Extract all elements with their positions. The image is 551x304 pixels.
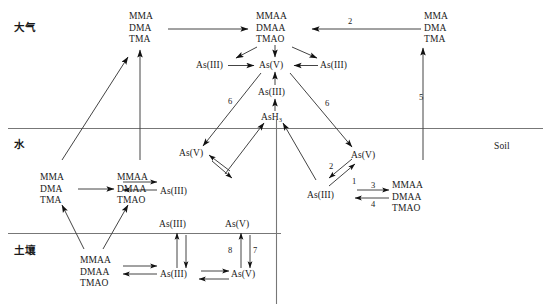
arrow-water-as3-to-as5-left <box>209 155 230 171</box>
node-line: DMA <box>129 23 153 35</box>
node-line: TMAO <box>80 278 111 290</box>
side-label-soil: Soil <box>494 141 510 153</box>
edge-label-4: 4 <box>371 199 375 211</box>
node-line: TMA <box>424 34 448 46</box>
node-soil-as5: As(V) <box>231 269 255 281</box>
node-arsine: AsH3 <box>261 112 282 124</box>
edge-label-7: 7 <box>253 245 257 257</box>
node-atm-as3-lower: As(III) <box>258 87 285 99</box>
arsine-subscript: 3 <box>279 116 282 123</box>
node-line: TMAO <box>117 195 148 207</box>
arrow-water-as3-to-ash3-left <box>225 123 264 174</box>
node-atm-as3-left: As(III) <box>196 60 223 72</box>
node-soil-interface-as5: As(V) <box>225 219 249 231</box>
edge-label-6-right: 6 <box>325 98 329 110</box>
node-line: MMAA <box>392 180 423 192</box>
node-water-as5-left: As(V) <box>179 148 203 160</box>
node-line: TMA <box>40 195 64 207</box>
compartment-label-water: 水 <box>14 139 25 151</box>
node-atm-as5-center: As(V) <box>259 60 283 72</box>
node-water-methylarsenical: MMAA DMAA TMAO <box>117 172 148 207</box>
node-soil-interface-as3: As(III) <box>159 219 186 231</box>
arrow-atm-as5-to-water-as5-right <box>290 73 352 147</box>
compartment-label-atmosphere: 大气 <box>14 22 35 34</box>
arrow-water-methylamine-to-atmosphere <box>62 57 128 160</box>
node-atm-methylamine-right: MMA DMA TMA <box>424 11 448 46</box>
node-line: MMA <box>40 172 64 184</box>
edge-label-2-right: 2 <box>329 161 333 173</box>
node-line: DMAA <box>117 184 148 196</box>
node-line: MMA <box>129 11 153 23</box>
node-water-as5-right: As(V) <box>351 150 375 162</box>
node-water-as3-right: As(III) <box>307 190 334 202</box>
node-atm-as3-right: As(III) <box>320 60 347 72</box>
compartment-label-soil: 土壤 <box>14 245 35 257</box>
arrow-atm-as5-to-water-as5-left <box>203 73 261 146</box>
arrow-water-as3-to-ash3-right <box>283 123 316 180</box>
node-line: TMAO <box>256 34 287 46</box>
edge-label-6-left: 6 <box>228 96 232 108</box>
node-water-methylamine: MMA DMA TMA <box>40 172 64 207</box>
node-line: DMAA <box>256 23 287 35</box>
node-line: DMAA <box>80 267 111 279</box>
node-line: DMA <box>40 184 64 196</box>
node-line: TMAO <box>392 203 423 215</box>
arrow-soil-to-water-methylarsenical <box>103 205 128 249</box>
arrow-soil-to-water-methylamine <box>62 205 84 249</box>
node-line: TMA <box>129 34 153 46</box>
node-line: DMAA <box>392 192 423 204</box>
edge-label-5: 5 <box>419 92 423 104</box>
edge-label-8: 8 <box>228 245 232 257</box>
node-line: DMA <box>424 23 448 35</box>
edge-label-2-top: 2 <box>348 16 352 28</box>
node-line: MMAA <box>117 172 148 184</box>
node-line: MMAA <box>256 11 287 23</box>
arsine-formula: AsH <box>261 112 279 122</box>
arrow-atm-methyl-to-as3-right <box>292 47 317 58</box>
node-atm-methylamine-left: MMA DMA TMA <box>129 11 153 46</box>
edge-label-3: 3 <box>371 180 375 192</box>
edge-label-1: 1 <box>352 176 356 188</box>
node-soil-as3: As(III) <box>160 269 187 281</box>
node-soil-methylarsenical: MMAA DMAA TMAO <box>80 255 111 290</box>
arrow-atm-methyl-to-as3-left <box>236 47 257 58</box>
node-line: MMAA <box>80 255 111 267</box>
arsenic-cycle-diagram: 大气 水 土壤 Soil MMA DMA TMA MMAA DMAA TMAO … <box>0 0 551 304</box>
node-water-as3-left: As(III) <box>160 186 187 198</box>
node-atm-methylarsenical-center: MMAA DMAA TMAO <box>256 11 287 46</box>
node-line: MMA <box>424 11 448 23</box>
node-water-methylarsenical-right: MMAA DMAA TMAO <box>392 180 423 215</box>
